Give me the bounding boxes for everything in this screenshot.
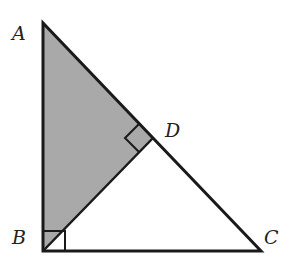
shaded-triangle-abd (43, 23, 153, 251)
label-b: B (11, 226, 26, 248)
label-d: D (164, 119, 180, 141)
label-c: C (264, 226, 279, 248)
triangle-diagram: A B C D (0, 0, 292, 268)
label-a: A (10, 22, 26, 44)
